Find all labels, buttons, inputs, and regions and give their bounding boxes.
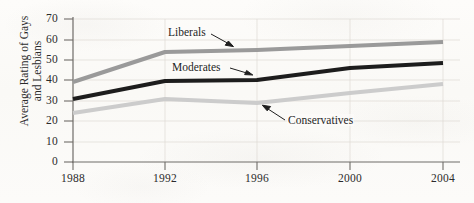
y-tick-label-50: 50 — [36, 53, 58, 65]
chart-figure: Average Rating of Gays and Lesbians 70 6… — [0, 0, 474, 203]
y-tick-label-0: 0 — [36, 155, 58, 167]
series-line-moderates — [73, 63, 443, 99]
x-tick-label-2004: 2004 — [421, 172, 465, 184]
x-axis-ticks — [73, 162, 443, 170]
x-tick-label-1992: 1992 — [143, 172, 187, 184]
series-label-conservatives: Conservatives — [287, 114, 354, 126]
series-label-moderates: Moderates — [171, 61, 222, 73]
y-tick-label-30: 30 — [36, 94, 58, 106]
y-axis-ticks — [64, 19, 73, 162]
series-label-liberals: Liberals — [167, 26, 207, 38]
y-tick-label-70: 70 — [36, 12, 58, 24]
x-tick-label-2000: 2000 — [328, 172, 372, 184]
y-axis-title-line-2: and Lesbians — [31, 41, 43, 101]
y-tick-label-20: 20 — [36, 114, 58, 126]
y-axis-title-line-1: Average Rating of Gays — [18, 16, 30, 127]
gridlines-vertical — [165, 19, 443, 162]
y-tick-label-60: 60 — [36, 33, 58, 45]
series-line-liberals — [73, 42, 443, 82]
x-tick-label-1996: 1996 — [235, 172, 279, 184]
y-tick-label-10: 10 — [36, 135, 58, 147]
y-tick-label-40: 40 — [36, 73, 58, 85]
x-tick-label-1988: 1988 — [51, 172, 95, 184]
